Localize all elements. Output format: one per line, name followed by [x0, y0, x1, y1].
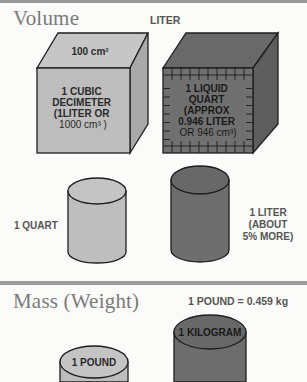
pound-cylinder: 1 POUND	[60, 346, 128, 382]
cube-top-label: 100 cm²	[71, 46, 109, 57]
quart-front-label: 1 LIQUID QUART (APPROX 0.946 LITER OR 94…	[178, 83, 237, 138]
svg-text:1 POUND: 1 POUND	[72, 357, 116, 368]
one-liter-label: 1 LITER (ABOUT 5% MORE)	[238, 207, 298, 243]
label-line: 5% MORE)	[238, 231, 298, 243]
one-quart-label: 1 QUART	[14, 220, 58, 232]
kilogram-cylinder: 1 KILOGRAM	[174, 315, 246, 382]
svg-text:1 KILOGRAM: 1 KILOGRAM	[179, 327, 242, 338]
illustration: 100 cm² 1 CUBIC DECIMETER (1LITER OR 100…	[0, 0, 307, 382]
liquid-quart-cube: 1 LIQUID QUART (APPROX 0.946 LITER OR 94…	[163, 33, 278, 153]
label-line: (ABOUT	[238, 219, 298, 231]
mass-heading: Mass (Weight)	[13, 289, 139, 314]
quart-cylinder	[68, 178, 126, 263]
pound-conversion: 1 POUND = 0.459 kg	[188, 295, 288, 307]
section-divider	[0, 281, 307, 285]
label-line: 1 LITER	[238, 207, 298, 219]
liter-cylinder	[171, 166, 229, 262]
cubic-decimeter-cube: 100 cm² 1 CUBIC DECIMETER (1LITER OR 100…	[37, 33, 148, 153]
